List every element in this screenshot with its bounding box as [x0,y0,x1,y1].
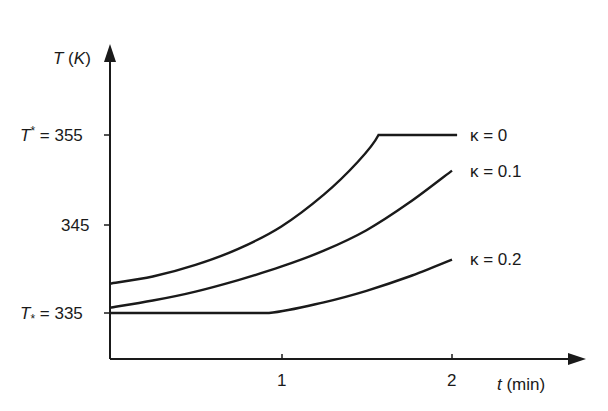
y-axis-arrow-icon [104,44,116,62]
legend-kappa-0: κ = 0 [470,126,507,145]
y-tick-label-345: 345 [61,216,89,235]
legend-kappa-0-1: κ = 0.1 [470,162,522,181]
x-axis-title: t (min) [497,375,545,394]
x-tick-label-1: 1 [277,371,286,390]
y-tick-label-335: T* = 335 [20,304,83,326]
x-axis-arrow-icon [568,353,586,365]
temperature-chart: T (K) t (min) T* = 355 345 T* = 335 1 2 … [0,0,608,411]
series-kappa-0 [110,135,457,284]
series-layer [110,135,457,313]
y-tick-label-355: T* = 355 [20,124,83,145]
axes [104,44,586,365]
y-axis-title: T (K) [53,49,91,68]
series-kappa-0-1 [110,171,452,308]
x-tick-label-2: 2 [447,371,456,390]
legend-kappa-0-2: κ = 0.2 [470,250,522,269]
